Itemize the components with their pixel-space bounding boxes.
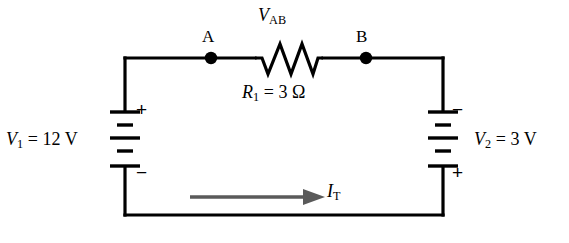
r1-value-text: = 3 Ω [259, 82, 305, 102]
current-subscript: T [333, 189, 341, 203]
source-left-minus-sign: − [136, 163, 147, 182]
v2-value-text: = 3 V [491, 129, 536, 149]
current-label: IT [327, 182, 341, 203]
diagram-background [0, 0, 569, 243]
r1-symbol: R [242, 82, 253, 102]
source-left-plus-sign: + [136, 100, 147, 119]
v2-symbol: V [474, 129, 485, 149]
v-ab-subscript: AB [269, 13, 286, 27]
resistor-voltage-label: VAB [258, 6, 286, 27]
v1-symbol: V [6, 129, 17, 149]
source-right-minus-sign: − [452, 100, 463, 119]
resistor-value-label: R1 = 3 Ω [242, 83, 305, 104]
node-label-b: B [356, 28, 367, 45]
node-label-a: A [202, 28, 214, 45]
node-dot-a [205, 52, 217, 64]
v-ab-symbol: V [258, 5, 269, 25]
source-right-label: V2 = 3 V [474, 130, 537, 151]
v1-value-text: = 12 V [23, 129, 77, 149]
node-dot-b [360, 52, 372, 64]
circuit-diagram-canvas [0, 0, 569, 243]
source-right-plus-sign: + [452, 163, 463, 182]
source-left-label: V1 = 12 V [6, 130, 78, 151]
